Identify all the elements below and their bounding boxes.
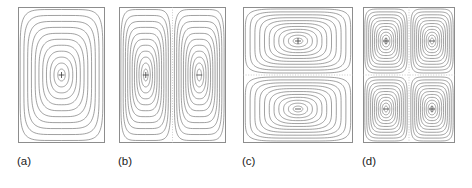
panel-caption-c: (c) [242,154,255,168]
cell-sign-plus-d-1 [383,38,389,44]
panel-caption-d: (d) [362,154,376,168]
cell-sign-plus-a-1 [59,72,65,78]
figure-root: (a)(b)(c)(d) [0,0,472,188]
panel-contours-a [18,7,105,143]
contour-panel-a [18,7,105,143]
panel-contours-b [119,7,226,143]
cell-sign-plus-c-1 [295,38,301,44]
panel-contours-c [243,7,353,143]
contour-panel-b [119,7,226,143]
panel-caption-b: (b) [118,154,132,168]
panel-contours-d [363,7,455,143]
panel-caption-a: (a) [17,154,31,168]
contour-panel-d [363,7,455,143]
contour-panel-c [243,7,353,143]
cell-sign-plus-d-4 [429,106,435,112]
